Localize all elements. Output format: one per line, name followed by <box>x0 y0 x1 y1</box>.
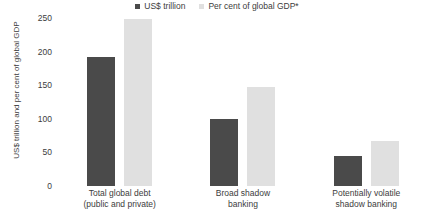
chart-legend: US$ trillion Per cent of global GDP* <box>0 2 434 11</box>
y-axis-tick-0: 0 <box>28 182 52 191</box>
x-axis-label-line: shadow banking <box>305 199 428 210</box>
bar-3-series-1 <box>334 156 362 186</box>
x-axis-category-labels: Total global debt(public and private)Bro… <box>58 188 428 210</box>
bar-groups <box>58 18 428 186</box>
bar-group-3 <box>305 18 428 186</box>
x-axis-label-line: banking <box>181 199 304 210</box>
y-axis-tick-150: 150 <box>28 81 52 90</box>
bar-group-2 <box>181 18 304 186</box>
legend-label-us-trillion: US$ trillion <box>144 2 185 11</box>
bar-1-series-1 <box>87 57 115 186</box>
y-axis-tick-100: 100 <box>28 115 52 124</box>
x-axis-label-line: Potentially volatile <box>305 188 428 199</box>
legend-swatch-icon-per-cent-gdp <box>199 4 204 9</box>
legend-swatch-icon-us-trillion <box>135 4 140 9</box>
legend-label-per-cent-gdp: Per cent of global GDP* <box>208 2 298 11</box>
bar-1-series-2 <box>124 19 152 186</box>
bar-3-series-2 <box>371 141 399 186</box>
x-axis-label-line: (public and private) <box>58 199 181 210</box>
x-axis-label-line: Broad shadow <box>181 188 304 199</box>
x-axis-label-2: Broad shadowbanking <box>181 188 304 210</box>
y-axis-title: US$ trillion and per cent of global GDP <box>13 10 21 170</box>
y-axis-tick-50: 50 <box>28 148 52 157</box>
bar-2-series-2 <box>247 87 275 186</box>
x-axis-label-1: Total global debt(public and private) <box>58 188 181 210</box>
legend-entry-us-trillion: US$ trillion <box>135 2 185 11</box>
y-axis-tick-200: 200 <box>28 47 52 56</box>
x-axis-label-3: Potentially volatileshadow banking <box>305 188 428 210</box>
y-axis-tick-labels: 250200150100500 <box>28 18 52 186</box>
y-axis-tick-250: 250 <box>28 14 52 23</box>
bar-2-series-1 <box>210 119 238 186</box>
plot-area: US$ trillion and per cent of global GDP … <box>0 18 434 219</box>
x-axis-label-line: Total global debt <box>58 188 181 199</box>
bar-group-1 <box>58 18 181 186</box>
legend-entry-per-cent-gdp: Per cent of global GDP* <box>199 2 298 11</box>
